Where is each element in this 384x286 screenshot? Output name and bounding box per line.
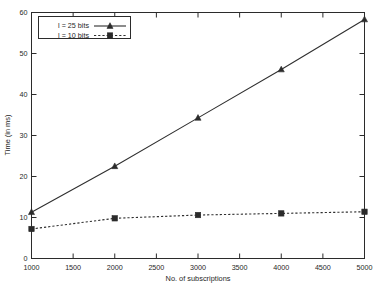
legend-label: l = 25 bits — [58, 21, 89, 30]
y-axis-title: Time (in ms) — [3, 115, 12, 156]
x-tick-label: 4500 — [315, 263, 331, 272]
y-tick-label: 30 — [20, 131, 28, 140]
x-tick-label: 2000 — [107, 263, 123, 272]
y-tick-label: 50 — [20, 49, 28, 58]
data-point-marker — [279, 211, 284, 216]
x-tick-label: 1500 — [65, 263, 81, 272]
x-tick-label: 3500 — [232, 263, 248, 272]
data-point-marker — [112, 216, 117, 221]
x-axis-title: No. of subscriptions — [166, 274, 231, 283]
chart-legend: l = 25 bitsl = 10 bits — [39, 17, 131, 40]
x-tick-label: 1000 — [24, 263, 40, 272]
chart-figure: 0102030405060 10001500200025003000350040… — [0, 0, 384, 286]
data-point-marker — [29, 226, 34, 231]
y-tick-label: 60 — [20, 8, 28, 17]
x-tick-label: 4000 — [273, 263, 289, 272]
x-tick-label: 2500 — [148, 263, 164, 272]
data-point-marker — [195, 212, 200, 217]
y-tick-label: 40 — [20, 90, 28, 99]
y-tick-label: 20 — [20, 172, 28, 181]
legend-label: l = 10 bits — [58, 31, 89, 40]
data-point-marker — [362, 209, 367, 214]
y-tick-label: 10 — [20, 213, 28, 222]
x-tick-label: 5000 — [357, 263, 373, 272]
x-tick-label: 3000 — [190, 263, 206, 272]
data-point-marker — [107, 33, 112, 38]
line-chart: 0102030405060 10001500200025003000350040… — [0, 0, 384, 286]
